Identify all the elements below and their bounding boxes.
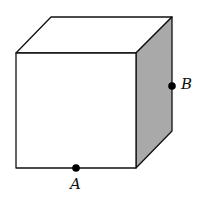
cube-front-face xyxy=(16,53,136,168)
point-b-marker xyxy=(168,82,176,90)
point-a-label: A xyxy=(68,175,81,193)
point-a-marker xyxy=(72,164,80,172)
cube-diagram: A B xyxy=(0,0,201,201)
point-b-label: B xyxy=(180,75,192,93)
